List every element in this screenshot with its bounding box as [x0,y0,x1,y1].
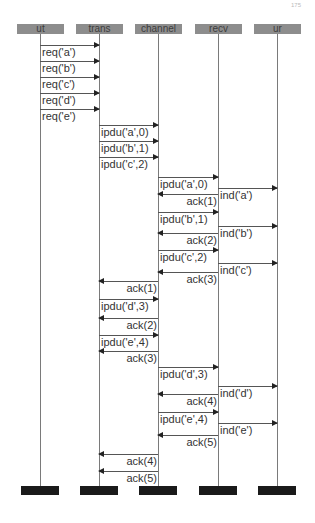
participant-footer-channel [139,486,177,495]
message-label: ind('b') [220,227,252,239]
message-label: ind('c') [220,264,252,276]
sequence-diagram: 175 uttranschannelrecvur req('a')req('b'… [0,0,315,523]
message-label: ipdu('a',0) [101,126,149,138]
message-label: req('d') [42,94,76,106]
participant-footer-recv [199,486,237,495]
lifeline-recv [218,34,219,486]
message-label: ipdu('e',4) [160,413,208,425]
participant-footer-ur [258,486,296,495]
message-label: req('c') [42,78,75,90]
message-label: ipdu('b',1) [101,142,149,154]
participant-header-channel: channel [135,24,182,34]
message-label: ack(1) [186,195,217,207]
message-label: ipdu('e',4) [101,336,149,348]
message-label: ipdu('c',2) [160,251,207,263]
message-label: ipdu('c',2) [101,158,148,170]
message-label: ack(4) [186,395,217,407]
message-label: ack(3) [186,273,217,285]
message-label: ind('a') [220,189,252,201]
message-label: ipdu('d',3) [101,300,149,312]
message-label: ack(1) [126,282,157,294]
participant-header-trans: trans [76,24,123,34]
message-label: ind('d') [220,387,252,399]
participant-footer-trans [80,486,118,495]
message-label: req('e') [42,110,76,122]
message-label: ack(4) [126,455,157,467]
message-label: ack(3) [126,352,157,364]
message-label: ind('e') [220,424,252,436]
participant-header-ur: ur [254,24,301,34]
lifeline-channel [158,34,159,486]
participant-footer-ut [21,486,59,495]
message-label: ipdu('b',1) [160,213,208,225]
participant-header-recv: recv [195,24,242,34]
message-label: ack(5) [186,436,217,448]
message-label: ipdu('d',3) [160,368,208,380]
participant-header-ut: ut [17,24,64,34]
message-label: ack(5) [126,472,157,484]
lifeline-ut [40,34,41,486]
page-number: 175 [291,2,301,8]
message-label: req('b') [42,62,76,74]
lifeline-trans [99,34,100,486]
message-label: req('a') [42,46,76,58]
message-label: ack(2) [186,234,217,246]
message-label: ack(2) [126,319,157,331]
message-label: ipdu('a',0) [160,178,208,190]
